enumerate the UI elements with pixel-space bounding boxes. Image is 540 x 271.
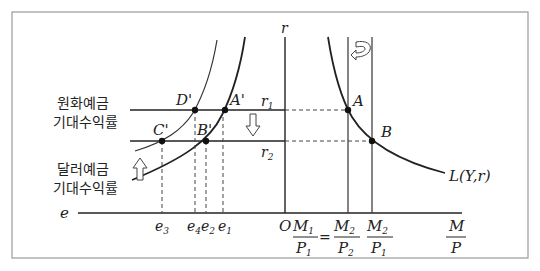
label-won-deposit-1: 원화예금 — [57, 95, 109, 111]
diagram-canvas: e r L(Y,r) D' A' C' B' A B r1 r2 원화예금 기대… — [0, 0, 540, 271]
label-a-prime: A' — [228, 91, 245, 109]
down-arrow-icon — [246, 114, 260, 136]
label-r2: r2 — [261, 144, 274, 162]
tick-m1-p1: M1 P1 — [292, 217, 318, 258]
e-axis-label: e — [60, 204, 69, 222]
svg-text:M2: M2 — [333, 217, 355, 236]
tick-e3: e3 — [155, 218, 169, 236]
svg-text:M2: M2 — [366, 217, 388, 236]
axis-m-p: M P — [446, 217, 466, 257]
label-r1: r1 — [261, 93, 273, 111]
svg-text:P: P — [450, 239, 462, 257]
tick-e4: e4 — [187, 218, 201, 236]
tick-e1: e1 — [218, 218, 232, 236]
r-axis-label: r — [281, 20, 289, 36]
label-won-deposit-2: 기대수익률 — [53, 114, 118, 130]
label-b-prime: B' — [196, 121, 212, 139]
point-d-prime — [192, 107, 198, 113]
curved-left-arrow-icon — [351, 41, 370, 60]
tick-m2-p1: M2 P1 — [366, 217, 393, 258]
point-a — [345, 107, 351, 113]
label-dollar-deposit-2: 기대수익률 — [53, 180, 118, 196]
equals-sign: = — [319, 229, 331, 245]
label-dollar-deposit-1: 달러예금 — [57, 161, 109, 177]
tick-e2: e2 — [201, 218, 215, 236]
money-demand-curve — [328, 37, 445, 173]
label-b: B — [380, 123, 392, 141]
origin-label: O — [279, 217, 291, 235]
svg-text:M: M — [448, 217, 465, 235]
point-a-prime — [222, 107, 228, 113]
svg-text:M1: M1 — [292, 217, 314, 236]
tick-m2-p2: M2 P2 — [333, 217, 360, 258]
label-d-prime: D' — [175, 91, 192, 109]
svg-text:P1: P1 — [370, 239, 387, 258]
point-b — [369, 138, 375, 144]
money-demand-label: L(Y,r) — [448, 167, 491, 185]
up-arrow-icon — [133, 158, 147, 180]
svg-text:P2: P2 — [337, 239, 354, 258]
label-a: A — [351, 92, 364, 110]
label-c-prime: C' — [153, 121, 169, 139]
svg-text:P1: P1 — [295, 239, 312, 258]
